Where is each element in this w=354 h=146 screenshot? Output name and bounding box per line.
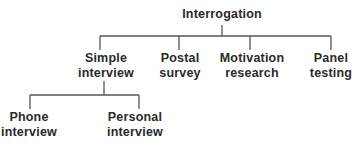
node-label-line1: Simple (78, 51, 134, 66)
node-label-line1: Personal (107, 110, 163, 125)
node-motivation-research: Motivation research (220, 51, 285, 80)
node-label: Interrogation (182, 7, 262, 22)
node-label-line2: interview (78, 66, 134, 81)
node-label-line2: survey (159, 66, 201, 81)
node-postal-survey: Postal survey (159, 51, 201, 80)
node-label-line1: Panel (310, 51, 352, 66)
node-interrogation: Interrogation (182, 7, 262, 22)
node-label-line1: Motivation (220, 51, 285, 66)
node-label-line2: interview (1, 125, 57, 140)
node-label-line2: testing (310, 66, 352, 81)
node-label-line2: research (220, 66, 285, 81)
node-panel-testing: Panel testing (310, 51, 352, 80)
node-label-line2: interview (107, 125, 163, 140)
node-personal-interview: Personal interview (107, 110, 163, 139)
node-phone-interview: Phone interview (1, 110, 57, 139)
node-simple-interview: Simple interview (78, 51, 134, 80)
node-label-line1: Phone (1, 110, 57, 125)
node-label-line1: Postal (159, 51, 201, 66)
